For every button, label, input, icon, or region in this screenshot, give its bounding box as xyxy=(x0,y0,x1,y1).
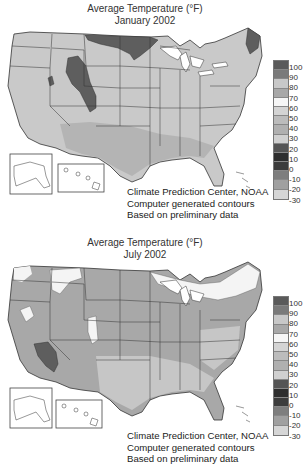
july-map-title: Average Temperature (°F) July 2002 xyxy=(0,237,290,261)
july-legend-labels: 100 90 80 70 60 50 40 30 20 10 0 -10 -20… xyxy=(289,299,302,442)
july-legend xyxy=(273,296,289,436)
july-credits: Climate Prediction Center, NOAA Computer… xyxy=(127,430,268,465)
january-us-map xyxy=(0,26,275,196)
january-title-line1: Average Temperature (°F) xyxy=(0,3,290,15)
july-map-panel: Average Temperature (°F) July 2002 xyxy=(0,234,305,466)
july-title-line1: Average Temperature (°F) xyxy=(0,237,290,249)
january-map-panel: Average Temperature (°F) January 2002 xyxy=(0,0,305,230)
january-legend-labels: 100 90 80 70 60 50 40 30 20 10 0 -10 -20… xyxy=(289,63,302,206)
january-legend xyxy=(273,60,289,200)
january-credits: Climate Prediction Center, NOAA Computer… xyxy=(127,186,268,221)
july-us-map xyxy=(0,260,275,430)
january-map-title: Average Temperature (°F) January 2002 xyxy=(0,3,290,27)
